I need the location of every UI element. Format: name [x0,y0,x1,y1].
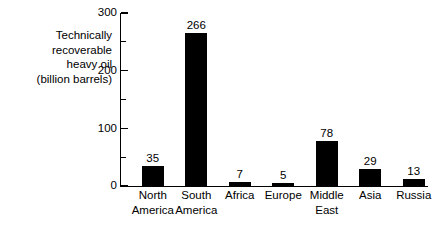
y-axis-title-line-2: recoverable [4,43,112,58]
category-label: Europe [265,188,302,203]
y-tick-label: 200 [98,62,117,78]
y-tick-major: 300 [121,12,128,13]
category-label-line: Europe [265,188,302,203]
y-tick-label: 100 [98,120,117,136]
bar: 29 [359,169,381,186]
category-label-line: Middle [310,188,344,203]
bar: 13 [403,179,425,186]
bar-value-label: 266 [187,19,206,32]
category-label-line: America [132,203,174,218]
y-axis-title: Technically recoverable heavy oil (billi… [4,28,112,86]
bar-value-label: 29 [364,155,377,168]
category-label: Asia [359,188,381,203]
category-label: NorthAmerica [132,188,174,217]
bar: 78 [316,141,338,186]
bar-value-label: 13 [407,165,420,178]
bar-value-label: 78 [320,127,333,140]
category-label-line: East [310,203,344,218]
category-label-line: North [132,188,174,203]
y-tick-minor [121,41,126,42]
bar: 7 [229,182,251,186]
bar-value-label: 35 [146,152,159,165]
y-axis-title-line-3: heavy oil [4,57,112,72]
bar: 5 [272,183,294,186]
bar: 35 [142,166,164,186]
y-tick-minor [121,99,126,100]
y-tick-minor [121,157,126,158]
category-label-line: Asia [359,188,381,203]
y-axis-title-line-4: (billion barrels) [4,72,112,87]
category-label: Africa [225,188,254,203]
category-label: Russia [396,188,431,203]
category-label-line: Africa [225,188,254,203]
bar-value-label: 5 [280,169,286,182]
y-tick-label: 0 [111,177,117,193]
bar-chart-figure: Technically recoverable heavy oil (billi… [0,0,439,226]
plot-area: 0100200300 3526675782913 NorthAmericaSou… [120,13,428,186]
y-tick-major: 200 [121,70,128,71]
category-label: MiddleEast [310,188,344,217]
category-label-line: Russia [396,188,431,203]
bar-value-label: 7 [237,168,243,181]
y-tick-major: 100 [121,128,128,129]
y-tick-label: 300 [98,4,117,20]
y-axis-title-line-1: Technically [4,28,112,43]
category-label-line: South [175,188,217,203]
y-tick-major: 0 [121,185,128,186]
bar: 266 [185,33,207,186]
category-label-line: America [175,203,217,218]
category-label: SouthAmerica [175,188,217,217]
